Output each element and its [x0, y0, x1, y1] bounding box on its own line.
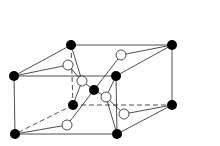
white-atom: [77, 76, 87, 86]
crystal-structure-diagram: [0, 0, 220, 146]
black-atom: [89, 85, 99, 95]
black-atom: [9, 71, 19, 81]
white-atom: [62, 120, 72, 130]
black-atom: [111, 71, 121, 81]
white-atom: [116, 50, 126, 60]
white-atom: [101, 92, 111, 102]
black-atom: [68, 100, 78, 110]
white-atom: [119, 109, 129, 119]
white-atom: [63, 60, 73, 70]
black-atom: [66, 40, 76, 50]
black-atom: [10, 129, 20, 139]
black-atom: [167, 100, 177, 110]
black-atom: [167, 40, 177, 50]
black-atom: [112, 129, 122, 139]
